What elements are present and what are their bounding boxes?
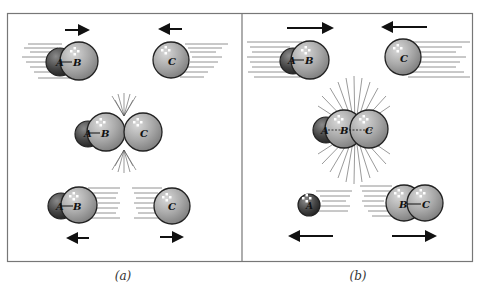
caption-b: (b) [349, 269, 366, 283]
svg-text:B: B [339, 125, 348, 136]
svg-text:C: C [168, 201, 176, 212]
svg-text:A: A [305, 201, 313, 211]
svg-text:B: B [100, 128, 109, 139]
svg-text:A: A [287, 55, 296, 66]
svg-text:C: C [422, 199, 430, 210]
atom-c: C [385, 39, 421, 75]
molecule-bc-product: B C [386, 185, 443, 221]
molecule-ab-rebound: A B [48, 187, 97, 223]
activated-complex-abc: A B C [313, 110, 388, 148]
atom-c-rebound: C [154, 188, 190, 224]
svg-text:B: B [304, 55, 313, 66]
svg-text:A: A [55, 201, 64, 212]
svg-text:C: C [400, 53, 408, 64]
reaction-collision-diagram: A B C [0, 0, 494, 294]
panel-a: A B C [22, 29, 228, 238]
svg-text:A: A [83, 128, 92, 139]
atom-a-product: A [298, 194, 320, 216]
collision-complex-a: A B C [75, 113, 162, 151]
svg-text:C: C [140, 128, 148, 139]
svg-text:A: A [55, 57, 64, 68]
svg-text:B: B [72, 201, 81, 212]
panel-b: A B C [247, 27, 470, 236]
svg-text:C: C [365, 125, 373, 136]
atom-c: C [153, 42, 189, 78]
svg-text:C: C [168, 56, 176, 67]
caption-a: (a) [115, 269, 132, 283]
svg-text:B: B [398, 199, 407, 210]
svg-text:B: B [72, 57, 81, 68]
svg-text:A: A [320, 125, 329, 136]
